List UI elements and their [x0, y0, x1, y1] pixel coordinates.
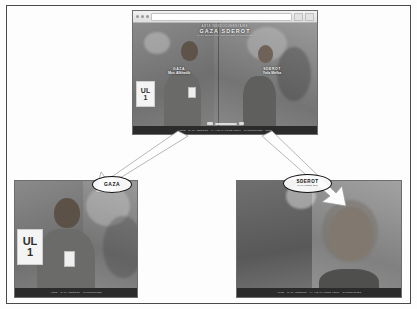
main-panel-footer: ARTE · GAZA SDEROT · LA VIE MALGRE TOUT … — [133, 126, 317, 134]
main-video-window[interactable]: UL 1 ARTE WEBDOCUMENTAIRE GAZA SDEROT la… — [132, 10, 318, 135]
gaza-speaker-badge — [188, 87, 196, 98]
browser-toolbar[interactable] — [133, 11, 317, 23]
gaza-zoom-scene: UL 1 — [15, 181, 137, 297]
site-header: ARTE WEBDOCUMENTAIRE GAZA SDEROT la vie … — [133, 25, 317, 37]
site-eyebrow: ARTE WEBDOCUMENTAIRE — [133, 25, 317, 28]
video-controls[interactable] — [133, 122, 317, 125]
main-video-stage[interactable]: UL 1 ARTE WEBDOCUMENTAIRE GAZA SDEROT la… — [133, 23, 317, 134]
gaza-zoom-speaker-head — [54, 198, 80, 228]
street-sign-line2: 1 — [144, 94, 148, 101]
sderot-zoom-scene — [237, 181, 401, 297]
street-sign-line1: UL — [141, 87, 150, 94]
browser-dot-icon — [141, 15, 144, 18]
callout-gaza-title: GAZA — [104, 182, 120, 187]
gaza-name-tag: GAZA Mus Alkhatib — [147, 67, 211, 75]
zoom-panel-gaza[interactable]: UL 1 ARTE · GAZA SDEROT · CHRONIQUES — [14, 180, 138, 298]
sderot-panel-footer-text: ARTE · GAZA SDEROT · LA VIE MALGRE TOUT … — [277, 291, 362, 294]
gaza-zoom-dark-blob — [103, 216, 137, 278]
sderot-name-tag-person: Yafa Melka — [239, 71, 305, 75]
main-panel-footer-text: ARTE · GAZA SDEROT · LA VIE MALGRE TOUT … — [178, 129, 272, 132]
browser-menu-button[interactable] — [294, 13, 303, 21]
callout-sderot-subtitle: la vie malgre tout — [297, 185, 317, 188]
figure-container: UL 1 ARTE WEBDOCUMENTAIRE GAZA SDEROT la… — [0, 0, 417, 309]
browser-dot-icon — [146, 15, 149, 18]
sderot-speaker-body — [243, 76, 276, 128]
browser-minimize-button[interactable] — [305, 13, 314, 21]
sderot-name-tag: SDEROT Yafa Melka — [239, 67, 305, 75]
progress-bar[interactable] — [215, 123, 237, 125]
video-scene: UL 1 — [133, 23, 317, 134]
sderot-panel-footer: ARTE · GAZA SDEROT · LA VIE MALGRE TOUT … — [237, 288, 401, 297]
sderot-zoom-hair — [322, 200, 378, 262]
gaza-speaker-head — [181, 41, 198, 61]
browser-dot-icon — [136, 15, 139, 18]
gaza-zoom-speaker-badge — [64, 251, 75, 267]
gaza-name-tag-person: Mus Alkhatib — [147, 71, 211, 75]
address-bar[interactable] — [151, 13, 292, 21]
callout-sderot: SDEROT la vie malgre tout — [283, 174, 332, 193]
sderot-speaker-head — [258, 45, 273, 63]
feed-divider — [218, 23, 219, 134]
street-sign: UL 1 — [136, 81, 155, 107]
zoom-panel-sderot[interactable]: ARTE · GAZA SDEROT · LA VIE MALGRE TOUT … — [236, 180, 402, 298]
gaza-speaker-body — [164, 72, 201, 128]
play-button[interactable] — [207, 122, 213, 125]
sderot-zoom-stage[interactable]: ARTE · GAZA SDEROT · LA VIE MALGRE TOUT … — [237, 181, 401, 297]
gaza-panel-footer-text: ARTE · GAZA SDEROT · CHRONIQUES — [50, 291, 102, 294]
gaza-zoom-sign-line2: 1 — [27, 247, 33, 258]
site-tagline: la vie malgre tout / life in spite of ev… — [133, 34, 317, 37]
gaza-panel-footer: ARTE · GAZA SDEROT · CHRONIQUES — [15, 288, 137, 297]
gaza-zoom-street-sign: UL 1 — [17, 229, 43, 265]
gaza-zoom-stage[interactable]: UL 1 ARTE · GAZA SDEROT · CHRONIQUES — [15, 181, 137, 297]
callout-gaza: GAZA — [92, 176, 132, 193]
volume-button[interactable] — [239, 122, 244, 125]
